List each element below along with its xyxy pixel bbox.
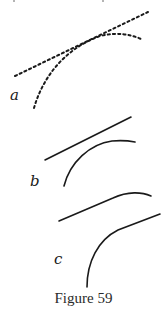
stray-marks [13,0,104,2]
panel-label-a: a [10,88,19,103]
figure-59: a b c Figure 59 [0,0,167,315]
panel-label-b: b [30,174,40,189]
panel-a-dotted-line [15,12,148,76]
panel-b-curve [64,141,135,186]
panel-a-dotted-curve [34,34,141,108]
panel-b-straight-line [45,117,131,160]
panel-c-line-joining-curve [59,193,151,221]
diagram-canvas [0,0,167,315]
figure-caption: Figure 59 [0,291,167,306]
panel-c-curve [87,214,160,287]
panel-label-c: c [54,252,62,267]
